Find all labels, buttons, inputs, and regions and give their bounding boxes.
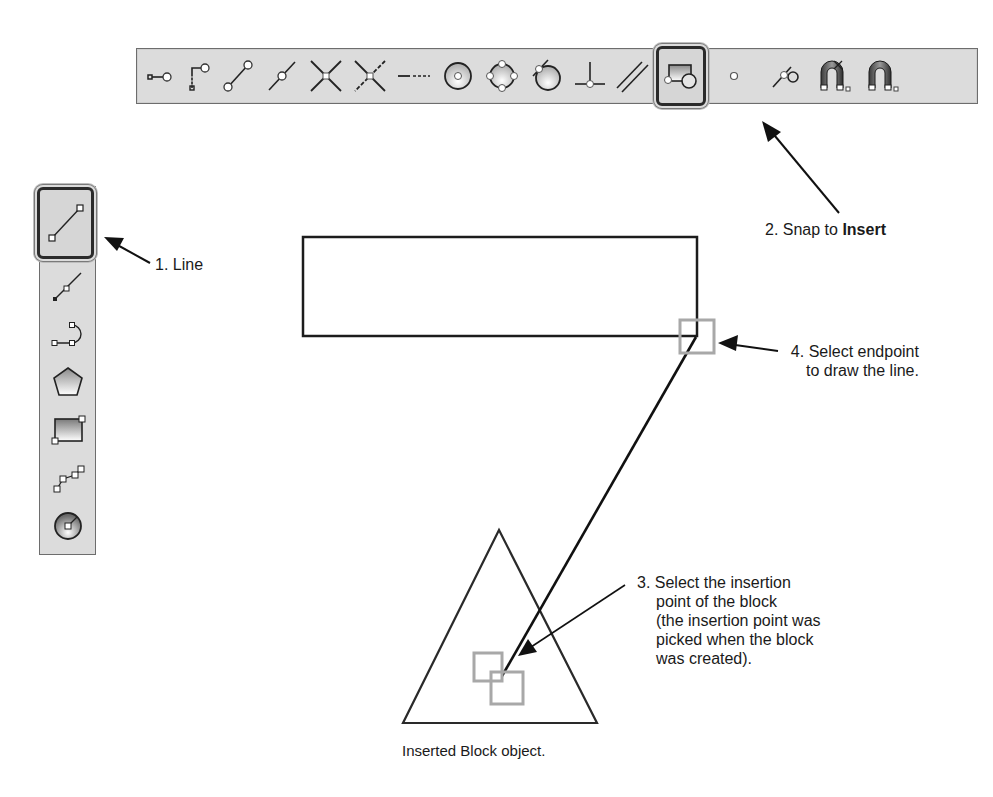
snap-none-button[interactable]: [813, 55, 855, 97]
snap-apparent-intersection-button[interactable]: [351, 57, 389, 95]
construction-line-icon: [51, 269, 85, 303]
tangent-icon: [528, 58, 564, 94]
snap-extension-button[interactable]: [395, 57, 433, 95]
step3-label: 3. Select the insertion point of the blo…: [637, 573, 821, 668]
insertion-snap-marker-2: [491, 672, 523, 704]
snap-insert-button[interactable]: [656, 46, 706, 106]
construction-line-button[interactable]: [46, 263, 90, 309]
drawing-canvas: [0, 0, 993, 797]
callout-arrow-3: [518, 585, 625, 656]
node-icon: [727, 69, 741, 83]
step4-line-1: 4. Select endpoint: [787, 342, 919, 361]
step3-line-4: picked when the block: [637, 630, 821, 649]
step3-line-5: was created).: [637, 649, 821, 668]
step4-line-2: to draw the line.: [787, 361, 919, 380]
rectangle-object[interactable]: [303, 237, 697, 336]
extension-icon: [396, 58, 432, 94]
block-caption: Inserted Block object.: [402, 741, 545, 760]
rectangle-icon: [50, 413, 86, 447]
snap-midpoint-button[interactable]: [265, 57, 299, 95]
polygon-button[interactable]: [46, 359, 90, 405]
snap-from-icon: [184, 60, 212, 92]
object-snap-toolbar: [136, 48, 978, 104]
callout-arrow-2: [762, 121, 839, 213]
step2-bold-text: Insert: [842, 221, 886, 238]
snap-tangent-button[interactable]: [527, 57, 565, 95]
intersection-icon: [308, 58, 344, 94]
step2-text: 2. Snap to: [765, 221, 842, 238]
endpoint-icon: [222, 59, 254, 93]
apparent-intersection-icon: [352, 58, 388, 94]
snap-from-button[interactable]: [181, 57, 215, 95]
snap-node-button[interactable]: [721, 59, 747, 93]
step1-label: 1. Line: [155, 255, 203, 274]
snap-endpoint-button[interactable]: [221, 57, 255, 95]
midpoint-icon: [266, 59, 298, 93]
insert-icon: [663, 61, 699, 91]
line-icon: [46, 202, 86, 244]
snap-intersection-button[interactable]: [307, 57, 345, 95]
circle-icon: [51, 509, 85, 543]
temporary-track-point-button[interactable]: [145, 59, 175, 93]
polygon-icon: [51, 365, 85, 399]
spline-icon: [51, 461, 85, 495]
nearest-icon: [769, 59, 803, 93]
snap-nearest-button[interactable]: [767, 57, 805, 95]
inserted-block-triangle[interactable]: [403, 530, 597, 723]
step3-line-1: 3. Select the insertion: [637, 573, 821, 592]
circle-button[interactable]: [46, 503, 90, 549]
center-icon: [441, 59, 475, 93]
snap-center-button[interactable]: [439, 57, 477, 95]
snap-parallel-button[interactable]: [613, 57, 651, 95]
spline-button[interactable]: [46, 455, 90, 501]
snap-perpendicular-button[interactable]: [571, 57, 609, 95]
draw-toolbar: [39, 186, 96, 555]
step3-line-2: point of the block: [637, 592, 821, 611]
perpendicular-icon: [572, 58, 608, 94]
polyline-button[interactable]: [46, 311, 90, 357]
step4-label: 4. Select endpoint to draw the line.: [787, 342, 919, 380]
step3-line-3: (the insertion point was: [637, 611, 821, 630]
quadrant-icon: [484, 58, 520, 94]
snap-none-icon: [816, 58, 852, 94]
line-button[interactable]: [37, 187, 94, 259]
rectangle-button[interactable]: [46, 407, 90, 453]
insertion-snap-marker: [474, 653, 502, 681]
osnap-settings-button[interactable]: [861, 55, 903, 97]
osnap-settings-icon: [864, 58, 900, 94]
step2-label: 2. Snap to Insert: [765, 220, 886, 239]
callout-arrow-1: [104, 237, 150, 263]
temporary-track-point-icon: [146, 66, 174, 86]
polyline-icon: [51, 317, 85, 351]
snap-quadrant-button[interactable]: [483, 57, 521, 95]
callout-arrow-4: [718, 335, 778, 351]
endpoint-snap-marker: [680, 320, 714, 353]
parallel-icon: [614, 58, 650, 94]
